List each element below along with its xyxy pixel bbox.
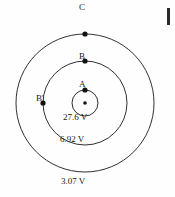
equipotential-diagram: C B A B' 27.6 V 6.92 V 3.07 V [0, 0, 175, 197]
point-label-a: A [79, 80, 86, 89]
point-label-b-prime: B' [36, 94, 44, 103]
cropped-edge-mark [167, 8, 170, 25]
point-charge-dot [83, 101, 87, 105]
potential-label-inner: 27.6 V [63, 113, 87, 122]
point-label-c: C [79, 3, 85, 12]
point-label-b: B [79, 52, 85, 61]
diagram-canvas [0, 0, 175, 197]
point-marker-c [82, 31, 87, 36]
potential-label-outer: 3.07 V [61, 177, 85, 186]
potential-label-middle: 6.92 V [60, 135, 84, 144]
